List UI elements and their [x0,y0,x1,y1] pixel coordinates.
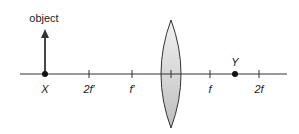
point-y-dot [232,71,238,77]
point-x-dot [42,71,48,77]
label-f-prime: f′ [129,83,135,95]
label-2f: 2f [253,83,264,95]
label-2f-prime: 2f′ [82,83,95,95]
point-x-label: X [40,83,49,95]
label-f: f [208,83,212,95]
point-y-label: Y [231,56,239,68]
object-arrow-head-icon [41,29,49,38]
object-label: object [29,12,58,24]
lens-diagram: object X Y 2f′ f′ f 2f [0,0,299,134]
